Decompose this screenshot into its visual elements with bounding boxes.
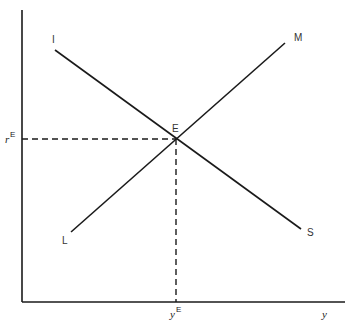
lm-curve: [71, 43, 285, 232]
is-end-label: S: [307, 227, 314, 238]
equilibrium-label: E: [172, 123, 179, 134]
x-axis-label: y: [321, 308, 327, 320]
lm-start-label: L: [62, 235, 68, 246]
y-equilibrium-label: y: [169, 308, 175, 320]
lm-end-label: M: [294, 32, 302, 43]
is-curve: [55, 50, 301, 229]
is-lm-diagram: I S L M E r E y E y: [0, 0, 345, 323]
is-start-label: I: [52, 34, 55, 45]
r-equilibrium-sup: E: [10, 130, 15, 139]
y-equilibrium-sup: E: [176, 305, 181, 314]
